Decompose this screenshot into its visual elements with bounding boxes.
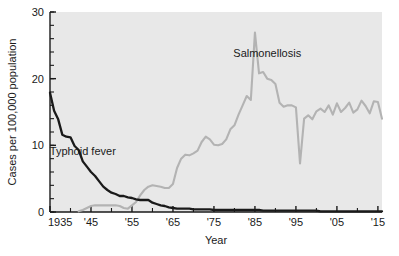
chart-figure: 0102030 1935'45'55'65'75'85'95'05'15 Sal… [0,0,399,256]
y-axis-title: Cases per 100,000 population [6,39,18,186]
x-tick-label: '75 [207,216,221,228]
series-label-typhoid-fever: Typhoid fever [50,145,116,157]
x-axis-title: Year [205,234,228,246]
x-tick-label: '65 [166,216,180,228]
series-label-salmonellosis: Salmonellosis [233,47,301,59]
y-tick-label: 30 [32,6,44,18]
x-tick-label: '45 [84,216,98,228]
x-tick-label: '55 [125,216,139,228]
x-tick-label: '85 [248,216,262,228]
y-tick-label: 0 [38,206,44,218]
epidemiology-line-chart: 0102030 1935'45'55'65'75'85'95'05'15 Sal… [0,0,399,256]
x-tick-label: '05 [330,216,344,228]
x-tick-label: 1935 [48,216,72,228]
x-tick-label: '95 [289,216,303,228]
x-tick-label: '15 [371,216,385,228]
y-tick-label: 10 [32,139,44,151]
y-tick-label: 20 [32,73,44,85]
